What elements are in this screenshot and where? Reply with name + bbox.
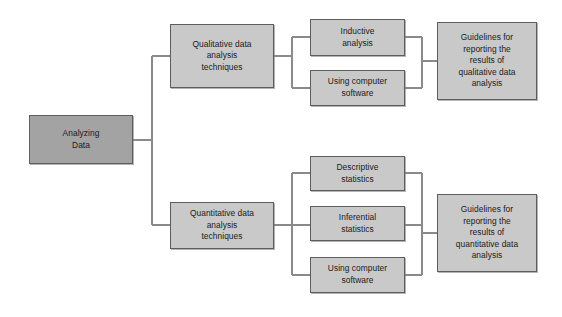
node-analyzing-data[interactable]: Analyzing Data bbox=[29, 115, 133, 164]
node-descriptive-statistics[interactable]: Descriptive statistics bbox=[310, 156, 405, 191]
node-qualitative-techniques[interactable]: Qualitative data analysis techniques bbox=[170, 24, 274, 88]
diagram-canvas: Analyzing DataQualitative data analysis … bbox=[0, 0, 562, 317]
node-label-qualitative-techniques: Qualitative data analysis techniques bbox=[190, 39, 255, 74]
node-label-inductive-analysis: Inductive analysis bbox=[338, 26, 378, 49]
node-label-qualitative-guidelines: Guidelines for reporting the results of … bbox=[455, 32, 518, 90]
node-quantitative-guidelines[interactable]: Guidelines for reporting the results of … bbox=[437, 194, 537, 272]
node-label-qual-using-computer-software: Using computer software bbox=[325, 76, 390, 99]
connector-qual-merge bbox=[405, 37, 437, 88]
node-label-quantitative-guidelines: Guidelines for reporting the results of … bbox=[453, 204, 521, 262]
node-inferential-statistics[interactable]: Inferential statistics bbox=[310, 206, 405, 241]
node-qualitative-guidelines[interactable]: Guidelines for reporting the results of … bbox=[437, 22, 537, 100]
node-label-analyzing-data: Analyzing Data bbox=[60, 128, 103, 151]
node-label-descriptive-statistics: Descriptive statistics bbox=[334, 162, 382, 185]
node-qual-using-computer-software[interactable]: Using computer software bbox=[310, 70, 405, 106]
node-label-inferential-statistics: Inferential statistics bbox=[336, 212, 379, 235]
node-quant-using-computer-software[interactable]: Using computer software bbox=[310, 257, 405, 293]
connector-quant-branch bbox=[274, 173, 310, 275]
connector-quant-merge bbox=[405, 173, 437, 275]
node-inductive-analysis[interactable]: Inductive analysis bbox=[310, 19, 405, 56]
connector-root-trunk bbox=[133, 56, 170, 225]
node-label-quantitative-techniques: Quantitative data analysis techniques bbox=[187, 208, 257, 243]
node-label-quant-using-computer-software: Using computer software bbox=[325, 263, 390, 286]
connector-qual-branch bbox=[274, 37, 310, 88]
node-quantitative-techniques[interactable]: Quantitative data analysis techniques bbox=[170, 202, 274, 249]
